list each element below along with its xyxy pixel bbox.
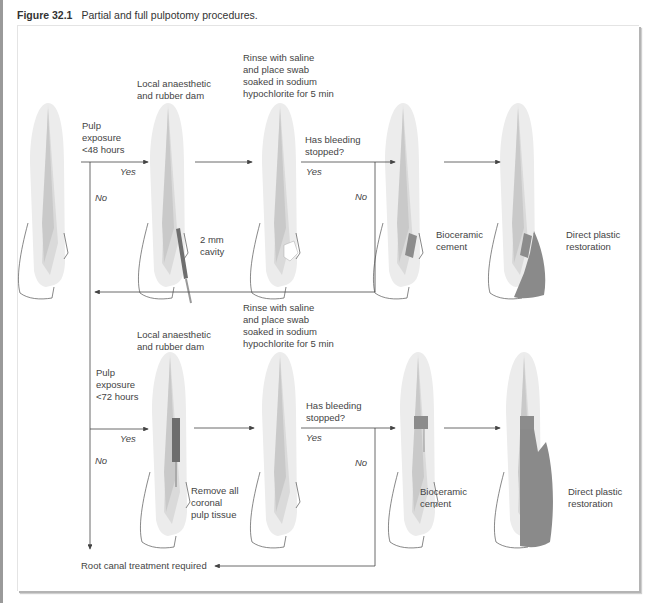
row2-no-label: No xyxy=(95,455,107,467)
tooth-row2-anaesthetic xyxy=(140,352,190,548)
restoration-fill xyxy=(520,429,553,547)
row1-yes-label: Yes xyxy=(120,166,136,178)
row2-remove-label: Remove all coronal pulp tissue xyxy=(191,485,239,521)
root-canal-label: Root canal treatment required xyxy=(81,560,207,572)
row2-restoration-label: Direct plastic restoration xyxy=(568,486,622,510)
tooth-row2-restored xyxy=(494,352,553,548)
row2-start-label: Pulp exposure <72 hours xyxy=(96,367,139,403)
row1-cavity-label: 2 mm cavity xyxy=(200,234,224,258)
tooth-row1-initial xyxy=(18,103,68,299)
row1-no2-label: No xyxy=(355,191,367,203)
row2-question: Has bleeding stopped? xyxy=(306,400,361,424)
row1-step1-label: Local anaesthetic and rubber dam xyxy=(137,78,211,102)
tooth-row2-cement xyxy=(388,352,438,548)
tooth-row1-cement xyxy=(373,103,423,299)
row1-yes2-label: Yes xyxy=(306,166,322,178)
row1-step2-label: Rinse with saline and place swab soaked … xyxy=(243,52,334,100)
tooth-row1-rinse xyxy=(250,103,300,299)
row1-question: Has bleeding stopped? xyxy=(305,134,360,158)
row2-yes-label: Yes xyxy=(120,433,136,445)
row1-no-label: No xyxy=(95,192,107,204)
row2-no2-label: No xyxy=(355,457,367,469)
bioceramic-cement-fill xyxy=(414,416,428,429)
row2-yes2-label: Yes xyxy=(306,432,322,444)
tooth-row1-restored xyxy=(488,103,545,299)
row2-step1-label: Local anaesthetic and rubber dam xyxy=(137,329,211,353)
row1-start-label: Pulp exposure <48 hours xyxy=(82,120,125,156)
row2-cement-label: Bioceramic cement xyxy=(420,486,467,510)
row1-restoration-label: Direct plastic restoration xyxy=(566,229,620,253)
tooth-row2-rinse xyxy=(250,352,300,548)
tooth-row1-anaesthetic xyxy=(138,103,191,303)
row2-step2-label: Rinse with saline and place swab soaked … xyxy=(243,302,334,350)
row1-cement-label: Bioceramic cement xyxy=(436,229,483,253)
